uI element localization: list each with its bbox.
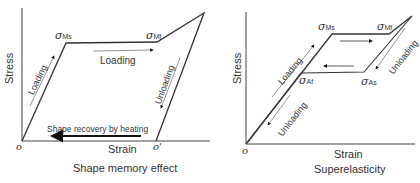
origin-label: o <box>242 145 248 156</box>
caption-shape-memory: Shape memory effect <box>73 162 177 174</box>
residual-origin-label: o' <box>153 141 162 152</box>
y-axis-label: Stress <box>3 53 15 84</box>
loading-plateau-arrow-icon <box>93 50 153 51</box>
sigma-as-label: σAs <box>361 75 377 88</box>
sigma-ms-label: σMs <box>55 29 72 42</box>
stress-strain-curve <box>22 13 204 141</box>
recovery-label: Shape recovery by heating <box>47 124 148 134</box>
x-axis-label: Strain <box>334 148 363 160</box>
loading-plateau-label: Loading <box>100 55 136 66</box>
unloading-curve <box>248 16 412 142</box>
sigma-mf-label: σMf <box>377 20 392 33</box>
sigma-ms-label: σMs <box>318 20 335 33</box>
shape-memory-diagram <box>22 8 210 141</box>
origin-label: o <box>16 141 22 152</box>
sigma-mf-label: σMf <box>146 29 161 42</box>
loading-curve <box>246 16 412 144</box>
y-axis-label: Stress <box>231 53 243 84</box>
sigma-af-label: σAf <box>299 74 313 87</box>
caption-superelasticity: Superelasticity <box>314 163 386 175</box>
x-axis-label: Strain <box>108 143 137 155</box>
